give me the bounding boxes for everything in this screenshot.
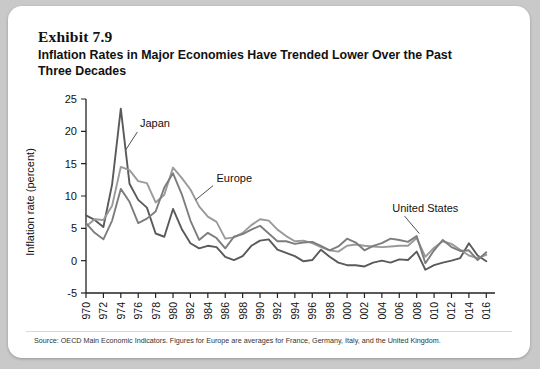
x-tick-label: 1970 [80,302,92,319]
x-tick-label: 1982 [184,302,196,319]
exhibit-number: Exhibit 7.9 [38,28,113,46]
series-line-japan [86,109,486,270]
y-tick-label: 20 [65,125,77,137]
x-tick-label: 1986 [219,302,231,319]
line-chart: Inflation rate (percent) 2520151050-5 19… [8,84,530,319]
x-tick-label: 1994 [289,302,301,319]
x-tick-label: 1984 [202,302,214,319]
x-tick-label: 1990 [254,302,266,319]
annotation-label-japan: Japan [140,117,170,129]
x-tick-label: 2006 [393,302,405,319]
x-tick-label: 2004 [376,302,388,319]
y-tick-label: 10 [65,190,77,202]
x-tick-label: 2010 [428,302,440,319]
data-series-group [86,109,486,270]
y-tick-label: 0 [71,255,77,267]
y-tick-label: 25 [65,93,77,105]
y-tick-label: 5 [71,222,77,234]
x-tick-label: 1996 [306,302,318,319]
x-axis-ticks: 1970197219741976197819801982198419861988… [80,293,492,319]
x-tick-label: 1992 [271,302,283,319]
x-tick-label: 1978 [150,302,162,319]
y-tick-label: 15 [65,158,77,170]
y-axis-title: Inflation rate (percent) [24,148,36,256]
annotation-label-united-states: United States [392,202,459,214]
x-tick-label: 2014 [463,302,475,319]
y-axis-ticks: 2520151050-5 [65,93,86,299]
x-tick-label: 1988 [237,302,249,319]
x-tick-label: 1976 [132,302,144,319]
annotation-leader-line [404,216,419,233]
x-tick-label: 1974 [115,302,127,319]
x-tick-label: 1980 [167,302,179,319]
exhibit-card: Exhibit 7.9 Inflation Rates in Major Eco… [8,6,530,358]
footer-divider [26,331,512,332]
x-tick-label: 2016 [480,302,492,319]
x-tick-label: 2000 [341,302,353,319]
x-tick-label: 1972 [97,302,109,319]
x-tick-label: 2002 [358,302,370,319]
x-tick-label: 2012 [445,302,457,319]
annotation-leader-line [126,132,137,149]
chart-figure: Inflation rate (percent) 2520151050-5 19… [8,84,530,319]
source-note: Source: OECD Main Economic Indicators. F… [34,336,514,345]
x-tick-label: 1998 [324,302,336,319]
annotation-label-europe: Europe [217,172,252,184]
series-line-united-states [86,173,486,263]
x-tick-label: 2008 [411,302,423,319]
exhibit-title: Inflation Rates in Major Economies Have … [38,48,478,79]
annotation-leader-line [196,186,213,200]
y-tick-label: -5 [67,287,77,299]
y-axis-title-text: Inflation rate (percent) [24,148,36,256]
